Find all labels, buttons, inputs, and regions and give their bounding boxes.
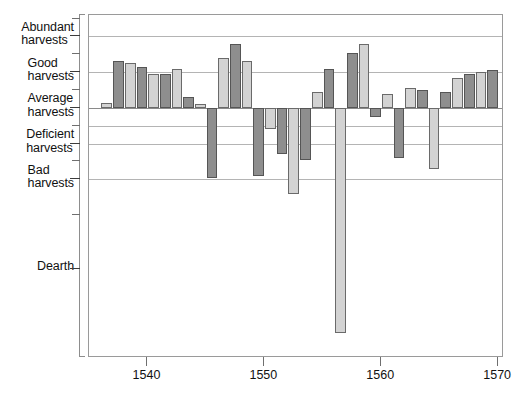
bar	[440, 92, 451, 108]
bar	[160, 74, 171, 108]
bar	[359, 44, 370, 108]
y-axis-label: Dearth	[37, 260, 74, 274]
y-axis-tick	[72, 89, 80, 90]
bar	[195, 104, 206, 108]
x-axis-tick	[497, 357, 498, 366]
y-axis-tick	[72, 125, 80, 126]
bar	[335, 108, 346, 333]
bar	[101, 103, 112, 108]
bar	[347, 53, 358, 108]
y-axis-tick	[72, 18, 80, 19]
bar	[464, 74, 475, 108]
bar	[394, 108, 405, 158]
bar	[125, 63, 136, 108]
bar	[207, 108, 218, 178]
gridline	[89, 36, 502, 37]
bar	[300, 108, 311, 160]
bar	[277, 108, 288, 154]
x-axis-tick	[146, 357, 147, 366]
y-axis-rail-cap-top	[79, 14, 85, 15]
bar	[183, 97, 194, 108]
y-axis-tick-major	[70, 35, 80, 36]
bar	[429, 108, 440, 169]
bar	[242, 61, 253, 107]
plot-area	[88, 14, 503, 357]
y-axis-tick-major	[70, 107, 80, 108]
bar	[324, 69, 335, 108]
x-axis-label: 1560	[350, 368, 410, 382]
y-axis-rail	[79, 14, 80, 357]
y-axis-tick	[72, 53, 80, 54]
x-axis-tick	[263, 357, 264, 366]
y-axis-label: Abundant harvests	[21, 21, 74, 48]
bar	[230, 44, 241, 108]
bar	[382, 94, 393, 108]
x-axis-label: 1570	[467, 368, 514, 382]
y-axis-rail-cap-bottom	[79, 356, 85, 357]
y-axis-tick-major	[70, 143, 80, 144]
y-axis-label: Good harvests	[28, 57, 74, 84]
bar	[218, 58, 229, 108]
x-axis-label: 1550	[233, 368, 293, 382]
bar	[113, 61, 124, 107]
x-axis-tick	[380, 357, 381, 366]
y-axis-tick-major	[70, 71, 80, 72]
y-axis-label: Average harvests	[28, 92, 74, 119]
bar	[172, 69, 183, 108]
x-axis-label: 1540	[116, 368, 176, 382]
bar	[452, 78, 463, 108]
bar	[137, 67, 148, 108]
bar	[417, 90, 428, 108]
y-axis-label: Deficient harvests	[26, 128, 74, 155]
harvest-quality-chart: Abundant harvestsGood harvestsAverage ha…	[0, 0, 514, 397]
y-axis-tick-major	[70, 268, 80, 269]
bar	[405, 88, 416, 108]
y-axis-tick	[72, 214, 80, 215]
bar	[312, 92, 323, 108]
y-axis-tick-major	[70, 178, 80, 179]
bar	[265, 108, 276, 129]
bar	[253, 108, 264, 176]
bar	[370, 108, 381, 117]
bar	[487, 70, 498, 108]
bar	[288, 108, 299, 194]
bar	[476, 72, 487, 108]
y-axis-tick	[72, 160, 80, 161]
y-axis-label: Bad harvests	[28, 164, 74, 191]
gridline	[89, 72, 502, 73]
bar	[148, 74, 159, 108]
